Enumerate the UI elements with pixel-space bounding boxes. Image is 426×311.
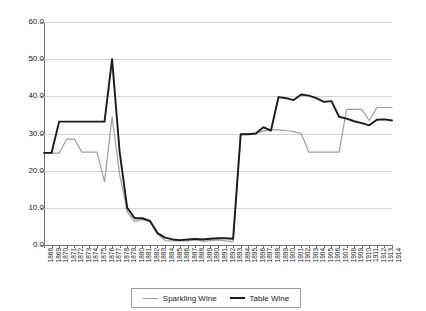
x-tick-mark bbox=[241, 245, 242, 248]
plot-area bbox=[44, 22, 392, 245]
x-tick-mark bbox=[233, 245, 234, 248]
x-tick-mark bbox=[203, 245, 204, 248]
x-tick-label: 1899 bbox=[282, 248, 289, 262]
x-tick-mark bbox=[112, 245, 113, 248]
x-tick-label: 1912 bbox=[380, 248, 387, 262]
x-tick-mark bbox=[135, 245, 136, 248]
x-tick-mark bbox=[256, 245, 257, 248]
legend-swatch-table-wine bbox=[230, 297, 245, 299]
x-tick-label: 1870 bbox=[62, 248, 69, 262]
x-tick-label: 1876 bbox=[108, 248, 115, 262]
x-tick-mark bbox=[120, 245, 121, 248]
y-tick-label: 0.0 bbox=[8, 241, 44, 249]
x-tick-label: 1882 bbox=[153, 248, 160, 262]
x-tick-mark bbox=[44, 245, 45, 248]
x-tick-mark bbox=[59, 245, 60, 248]
x-tick-label: 1871 bbox=[70, 248, 77, 262]
x-tick-label: 1891 bbox=[221, 248, 228, 262]
x-tick-label: 1894 bbox=[244, 248, 251, 262]
x-tick-label: 1913 bbox=[387, 248, 394, 262]
x-tick-label: 1895 bbox=[251, 248, 258, 262]
x-tick-mark bbox=[165, 245, 166, 248]
x-tick-mark bbox=[142, 245, 143, 248]
y-tick-label: 60.0 bbox=[8, 18, 44, 26]
x-tick-label: 1872 bbox=[77, 248, 84, 262]
x-tick-mark bbox=[331, 245, 332, 248]
x-tick-label: 1881 bbox=[145, 248, 152, 262]
x-tick-mark bbox=[97, 245, 98, 248]
x-tick-label: 1885 bbox=[176, 248, 183, 262]
x-tick-label: 1890 bbox=[213, 248, 220, 262]
x-tick-label: 1888 bbox=[198, 248, 205, 262]
x-tick-label: 1898 bbox=[274, 248, 281, 262]
chart-container: 0.010.020.030.040.050.060.0 186818691870… bbox=[0, 0, 426, 311]
x-tick-label: 1883 bbox=[160, 248, 167, 262]
x-tick-mark bbox=[226, 245, 227, 248]
x-tick-mark bbox=[218, 245, 219, 248]
x-tick-mark bbox=[52, 245, 53, 248]
gridline bbox=[44, 59, 392, 60]
x-tick-mark bbox=[74, 245, 75, 248]
x-tick-label: 1889 bbox=[206, 248, 213, 262]
x-tick-mark bbox=[105, 245, 106, 248]
x-tick-mark bbox=[89, 245, 90, 248]
x-tick-label: 1873 bbox=[85, 248, 92, 262]
x-tick-label: 1887 bbox=[191, 248, 198, 262]
x-tick-label: 1878 bbox=[123, 248, 130, 262]
x-tick-label: 1877 bbox=[115, 248, 122, 262]
x-tick-mark bbox=[173, 245, 174, 248]
gridline bbox=[44, 171, 392, 172]
x-tick-mark bbox=[127, 245, 128, 248]
x-tick-label: 1909 bbox=[357, 248, 364, 262]
x-tick-mark bbox=[362, 245, 363, 248]
x-tick-label: 1875 bbox=[100, 248, 107, 262]
x-tick-label: 1893 bbox=[236, 248, 243, 262]
x-tick-mark bbox=[384, 245, 385, 248]
x-tick-mark bbox=[392, 245, 393, 248]
gridline bbox=[44, 134, 392, 135]
x-tick-label: 1884 bbox=[168, 248, 175, 262]
legend-label-sparkling-wine: Sparkling Wine bbox=[163, 294, 217, 303]
x-tick-mark bbox=[188, 245, 189, 248]
x-tick-mark bbox=[316, 245, 317, 248]
x-tick-label: 1904 bbox=[319, 248, 326, 262]
legend-item-sparkling-wine: Sparkling Wine bbox=[143, 294, 217, 303]
x-tick-label: 1869 bbox=[55, 248, 62, 262]
x-tick-label: 1897 bbox=[266, 248, 273, 262]
x-tick-label: 1914 bbox=[395, 248, 402, 262]
x-tick-label: 1908 bbox=[350, 248, 357, 262]
x-tick-label: 1892 bbox=[229, 248, 236, 262]
x-tick-mark bbox=[157, 245, 158, 248]
x-tick-label: 1868 bbox=[47, 248, 54, 262]
x-tick-label: 1879 bbox=[130, 248, 137, 262]
x-tick-label: 1886 bbox=[183, 248, 190, 262]
x-tick-label: 1906 bbox=[334, 248, 341, 262]
y-tick-label: 30.0 bbox=[8, 130, 44, 138]
x-tick-label: 1910 bbox=[365, 248, 372, 262]
x-tick-mark bbox=[301, 245, 302, 248]
x-tick-mark bbox=[286, 245, 287, 248]
gridline bbox=[44, 96, 392, 97]
y-tick-label: 10.0 bbox=[8, 204, 44, 212]
x-tick-mark bbox=[294, 245, 295, 248]
chart-legend: Sparkling Wine Table Wine bbox=[131, 288, 301, 308]
x-tick-mark bbox=[210, 245, 211, 248]
x-tick-mark bbox=[339, 245, 340, 248]
x-tick-mark bbox=[271, 245, 272, 248]
x-tick-mark bbox=[369, 245, 370, 248]
legend-swatch-sparkling-wine bbox=[143, 298, 158, 299]
x-tick-mark bbox=[248, 245, 249, 248]
x-tick-label: 1902 bbox=[304, 248, 311, 262]
x-tick-mark bbox=[309, 245, 310, 248]
x-axis-labels: 1868186918701871187218731874187518761877… bbox=[44, 248, 392, 288]
x-tick-label: 1874 bbox=[92, 248, 99, 262]
y-tick-label: 50.0 bbox=[8, 55, 44, 63]
x-tick-mark bbox=[195, 245, 196, 248]
gridline bbox=[44, 208, 392, 209]
x-tick-mark bbox=[150, 245, 151, 248]
x-tick-mark bbox=[82, 245, 83, 248]
x-tick-mark bbox=[377, 245, 378, 248]
x-tick-label: 1905 bbox=[327, 248, 334, 262]
x-tick-mark bbox=[279, 245, 280, 248]
x-tick-label: 1911 bbox=[372, 248, 379, 262]
